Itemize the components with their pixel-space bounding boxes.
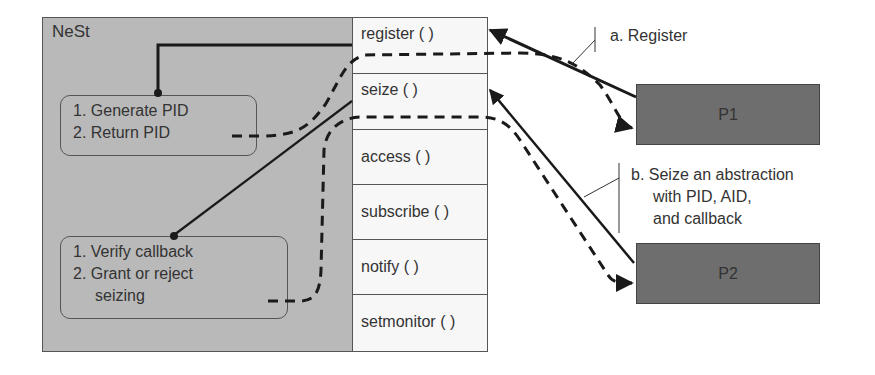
connector-lines <box>0 0 875 375</box>
register-to-handler-line <box>154 45 352 97</box>
p1-register-arrow <box>490 30 636 97</box>
p2-seize-arrow <box>490 90 634 263</box>
annotation-a-bracket <box>572 27 595 64</box>
return-pid-dashed-line <box>232 53 632 136</box>
grant-reject-dashed-line <box>268 117 632 301</box>
